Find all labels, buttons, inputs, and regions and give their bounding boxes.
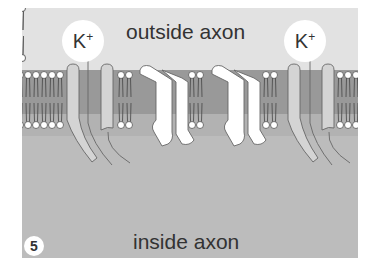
potassium-ion-right: K+	[284, 20, 326, 62]
step-number-badge: 5	[24, 236, 44, 256]
sodium-potassium-pump-left	[140, 66, 194, 147]
diagram-panel: K+ K+ outside axon inside axon	[22, 8, 358, 258]
inside-axon-label: inside axon	[133, 230, 239, 254]
potassium-channel-left	[67, 48, 130, 165]
sodium-potassium-pump-right	[212, 66, 266, 147]
potassium-ion-left: K+	[62, 20, 104, 62]
outside-axon-label: outside axon	[126, 20, 245, 44]
